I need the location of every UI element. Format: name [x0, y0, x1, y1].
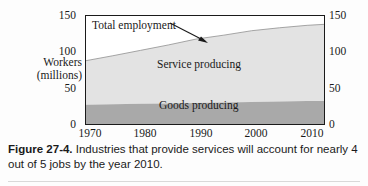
x-axis-label-2010: 2010 — [292, 127, 332, 139]
y-axis-title-line2: (millions) — [2, 69, 82, 82]
service-producing-label: Service producing — [157, 58, 241, 70]
x-axis-label-1990: 1990 — [181, 127, 221, 139]
figure-caption-label: Figure 27-4. — [8, 143, 73, 155]
goods-producing-label: Goods producing — [159, 99, 239, 111]
x-axis-label-1980: 1980 — [125, 127, 165, 139]
y-axis-right-label-150: 150 — [329, 10, 346, 21]
y-axis-left-label-100: 100 — [59, 46, 76, 57]
figure-27-4: Workers (millions) 150 100 50 0 150 100 … — [0, 0, 368, 186]
y-axis-right-label-50: 50 — [329, 83, 341, 94]
x-axis-label-2000: 2000 — [236, 127, 276, 139]
y-axis-left-label-150: 150 — [59, 10, 76, 21]
y-axis-right-label-100: 100 — [329, 46, 346, 57]
y-axis-title-line1: Workers — [2, 56, 82, 69]
figure-caption: Figure 27-4. Industries that provide ser… — [8, 142, 360, 171]
y-axis-title: Workers (millions) — [2, 56, 82, 82]
caption-divider — [8, 181, 360, 182]
total-employment-annotation: Total employment — [92, 19, 176, 31]
y-axis-left-label-50: 50 — [65, 83, 77, 94]
employment-area-chart: Workers (millions) 150 100 50 0 150 100 … — [0, 0, 368, 142]
x-axis-label-1970: 1970 — [70, 127, 110, 139]
annotation-arrow-icon — [168, 20, 214, 46]
